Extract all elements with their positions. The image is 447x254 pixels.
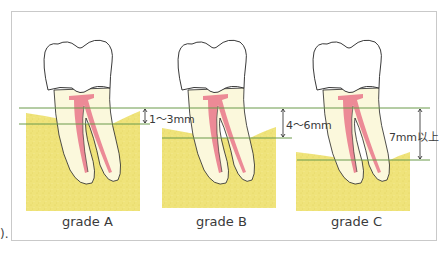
grade-label-c: grade C [331,214,382,229]
periodontal-grade-diagram: ). [0,0,447,254]
tooth-crown-b [178,40,246,92]
grade-label-b: grade B [196,214,247,229]
grade-label-a: grade A [62,214,113,229]
tooth-crown-a [44,40,112,92]
measurement-label-c: 7mm以上 [389,128,438,144]
tooth-crown-c [313,40,381,92]
panel-grade-a [19,40,150,211]
measurement-label-b: 4～6mm [286,116,331,132]
measurement-label-a: 1～3mm [149,110,194,126]
